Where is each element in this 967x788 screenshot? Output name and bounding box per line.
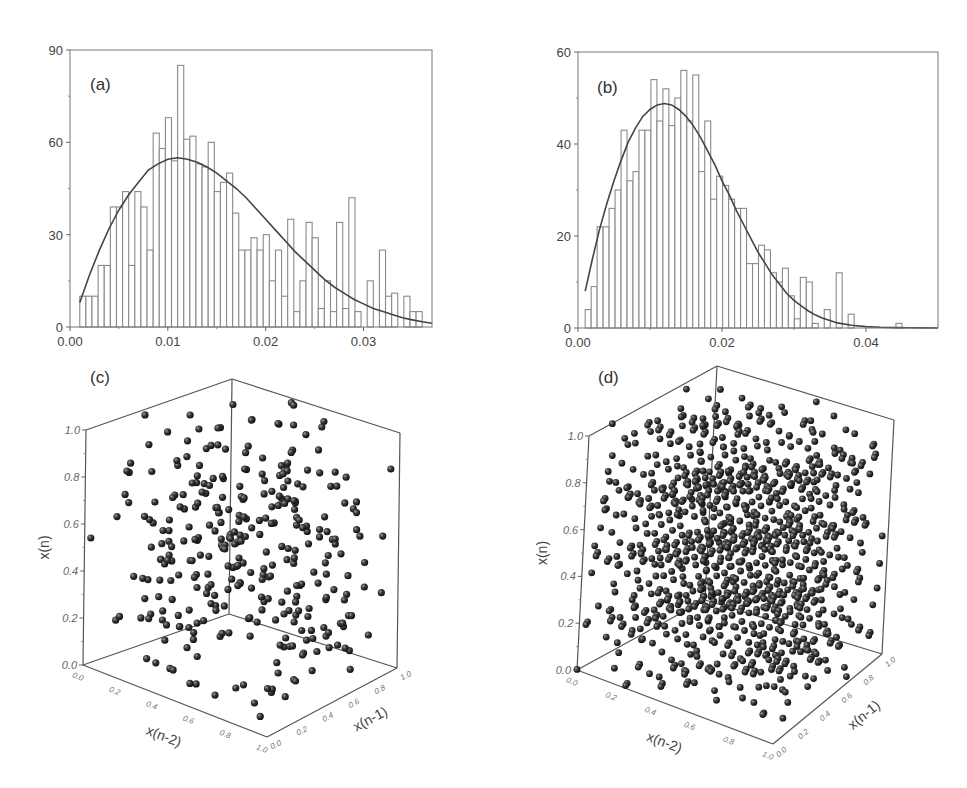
x-tick-label: 1.0 (761, 749, 775, 762)
histogram-bar (367, 281, 373, 327)
scatter-point (304, 613, 311, 620)
z-axis-title: x(n) (36, 535, 52, 559)
scatter-point (714, 535, 721, 542)
scatter-point (702, 474, 709, 481)
scatter-point (699, 422, 706, 429)
scatter-point (259, 576, 266, 583)
scatter-point (703, 567, 710, 574)
scatter-point (161, 637, 168, 644)
scatter-point (759, 553, 766, 560)
scatter-point (194, 472, 201, 479)
scatter-point (825, 630, 832, 637)
scatter-point (686, 493, 693, 500)
scatter-point (332, 535, 339, 542)
scatter-point (293, 582, 300, 589)
scatter-point (646, 504, 653, 511)
scatter-point (719, 483, 726, 490)
z-tick-label: 1.0 (568, 430, 584, 442)
scatter-point (681, 671, 688, 678)
scatter-point (707, 454, 714, 461)
histogram-bar (770, 273, 776, 328)
scatter-point (285, 607, 292, 614)
scatter-point (767, 421, 774, 428)
scatter-point (248, 524, 255, 531)
scatter-point (678, 660, 685, 667)
scatter-point (194, 500, 201, 507)
scatter-point (827, 474, 834, 481)
histogram-bar (349, 198, 355, 327)
scatter-point (652, 541, 659, 548)
scatter-point (778, 439, 785, 446)
histogram-bar (794, 319, 800, 328)
scatter-point (615, 649, 622, 656)
scatter-point (343, 474, 350, 481)
scatter-point (122, 491, 129, 498)
scatter-point (729, 612, 736, 619)
scatter-point (716, 671, 723, 678)
scatter-point (746, 562, 753, 569)
scatter-point (689, 544, 696, 551)
x-axis-title: x(n-2) (144, 722, 184, 750)
scatter-point (651, 487, 658, 494)
scatter-point (749, 548, 756, 555)
panel-label-c: (c) (90, 368, 110, 387)
scatter-point (588, 569, 595, 576)
scatter-point (779, 557, 786, 564)
scatter-point (711, 687, 718, 694)
scatter-point (603, 634, 610, 641)
scatter-point (211, 592, 218, 599)
x-tick-label: 0.6 (683, 720, 697, 733)
histogram-bar (172, 161, 178, 327)
scatter-point (151, 498, 158, 505)
scatter-point (194, 653, 201, 660)
scatter-point (292, 547, 299, 554)
scatter-point (706, 579, 713, 586)
scatter-point (353, 509, 360, 516)
scatter-point (869, 443, 876, 450)
scatter-point (779, 488, 786, 495)
scatter-point (663, 631, 670, 638)
x-tick-label: 0.4 (145, 699, 159, 712)
scatter-point (732, 457, 739, 464)
scatter-point (130, 573, 137, 580)
scatter-point (618, 623, 625, 630)
scatter-point (777, 470, 784, 477)
z-tick-label: 0.0 (556, 664, 572, 676)
histogram-bar (153, 133, 159, 327)
scatter-point (786, 432, 793, 439)
histogram-bar (806, 282, 812, 328)
scatter-point (821, 521, 828, 528)
scatter-point (602, 507, 609, 514)
scatter-point (750, 623, 757, 630)
scatter-point (302, 431, 309, 438)
scatter-point (759, 711, 766, 718)
scatter-point (729, 605, 736, 612)
scatter-point (656, 674, 663, 681)
scatter-point (746, 609, 753, 616)
scatter-point (189, 557, 196, 564)
scatter-point (276, 493, 283, 500)
scatter-point (671, 542, 678, 549)
scatter-point (783, 547, 790, 554)
scatter-point (754, 651, 761, 658)
scatter-point (655, 427, 662, 434)
scatter-point (288, 449, 295, 456)
scatter-point (834, 472, 841, 479)
scatter-point (810, 518, 817, 525)
scatter-point (794, 594, 801, 601)
scatter-point (284, 588, 291, 595)
scatter-point (212, 607, 219, 614)
panel-label-d: (d) (598, 368, 619, 387)
scatter-point (624, 570, 631, 577)
scatter-point (583, 621, 590, 628)
scatter-point (316, 469, 323, 476)
y-tick-label: 1.0 (399, 669, 414, 682)
histogram-bar (220, 182, 226, 327)
scatter-point (871, 454, 878, 461)
scatter-point (755, 409, 762, 416)
scatter-point (200, 617, 207, 624)
scatter-point (206, 482, 213, 489)
scatter-point (831, 534, 838, 541)
scatter-point (695, 573, 702, 580)
scatter-point (190, 629, 197, 636)
